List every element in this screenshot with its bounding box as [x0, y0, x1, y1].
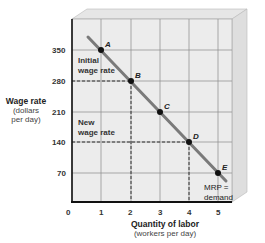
- x-tick-3: 3: [158, 208, 162, 217]
- point-label-c: C: [164, 102, 170, 111]
- y-tick-140: 140: [52, 138, 65, 147]
- point-e: [215, 170, 221, 176]
- x-axis-title: Quantity of labor (workers per day): [120, 219, 210, 238]
- annotation-mrp-demand: MRP = demand: [204, 183, 233, 203]
- y-tick-280: 280: [52, 77, 65, 86]
- bevel-right: [232, 9, 247, 202]
- x-tick-0: 0: [66, 208, 70, 217]
- y-tick-210: 210: [52, 108, 65, 117]
- point-d: [186, 139, 192, 145]
- point-a: [98, 47, 104, 53]
- y-tick-350: 350: [52, 46, 65, 55]
- bevel-top: [72, 9, 247, 19]
- point-label-d: D: [193, 132, 199, 141]
- x-tick-1: 1: [99, 208, 103, 217]
- point-label-e: E: [222, 163, 227, 172]
- x-tick-5: 5: [216, 208, 220, 217]
- point-c: [157, 109, 163, 115]
- x-tick-2: 2: [128, 208, 132, 217]
- point-label-a: A: [105, 40, 111, 49]
- point-b: [128, 78, 134, 84]
- point-label-b: B: [135, 71, 141, 80]
- annotation-new-wage: New wage rate: [78, 118, 115, 138]
- annotation-initial-wage: Initial wage rate: [78, 56, 115, 76]
- y-tick-70: 70: [57, 169, 66, 178]
- x-tick-4: 4: [187, 208, 191, 217]
- y-axis-title: Wage rate (dollars per day): [4, 96, 48, 124]
